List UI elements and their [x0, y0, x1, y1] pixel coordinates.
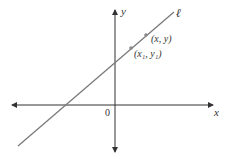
point-x-y-label: (x, y): [151, 33, 172, 45]
point-x1-y1-label: (x₁, y₁): [134, 48, 162, 60]
origin-label: 0: [105, 107, 110, 118]
coordinate-plane: ℓ y x 0 (x, y) (x₁, y₁): [0, 0, 234, 159]
y-axis-label: y: [120, 5, 126, 17]
point-x-y-marker: [144, 33, 148, 37]
point-x1-y1-marker: [129, 46, 133, 50]
x-axis-label: x: [213, 106, 219, 118]
line-label: ℓ: [176, 6, 181, 20]
